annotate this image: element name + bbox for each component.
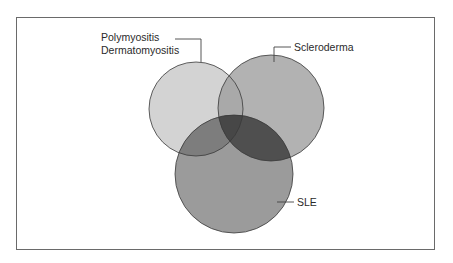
scleroderma-label: Scleroderma xyxy=(294,41,354,53)
polymyositis-label: Polymyositis Dermatomyositis xyxy=(101,31,179,56)
polymyositis-label-line1: Polymyositis xyxy=(101,31,179,43)
polymyositis-label-line2: Dermatomyositis xyxy=(101,44,179,56)
sle-label: SLE xyxy=(297,196,317,208)
venn-diagram xyxy=(0,0,453,263)
